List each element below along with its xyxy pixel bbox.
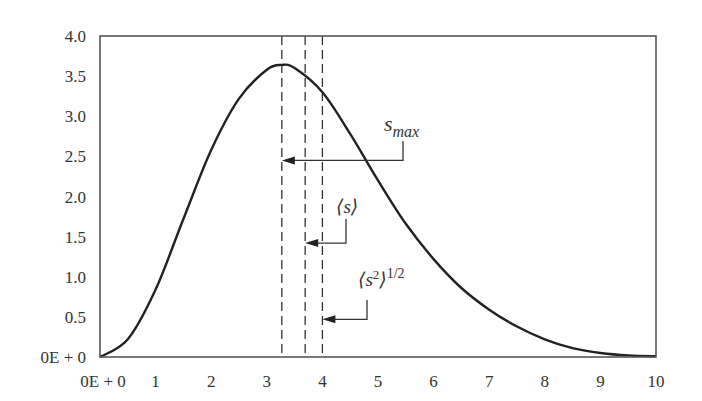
- label-mean-s: ⟨s⟩: [336, 196, 358, 217]
- y-tick-label: 0.5: [65, 308, 86, 327]
- plot-frame: [100, 36, 656, 357]
- line-chart: 0E + 00.51.01.52.02.53.03.54.0 0E + 0123…: [0, 0, 702, 401]
- x-tick-label: 2: [207, 372, 216, 391]
- x-tick-label: 3: [263, 372, 272, 391]
- y-tick-label: 3.5: [65, 67, 86, 86]
- x-tick-label: 5: [374, 372, 383, 391]
- y-tick-label: 1.5: [65, 228, 86, 247]
- y-tick-label: 2.0: [65, 188, 86, 207]
- x-tick-label: 8: [541, 372, 550, 391]
- leader-line-mean_s: [315, 219, 346, 243]
- x-tick-label: 7: [485, 372, 494, 391]
- x-axis-tick-labels: 0E + 012345678910: [80, 372, 664, 391]
- x-tick-label: 9: [596, 372, 605, 391]
- marker-annotations: smax⟨s⟩⟨s2⟩1/2: [282, 111, 419, 323]
- x-tick-label: 10: [648, 372, 665, 391]
- x-tick-label: 1: [151, 372, 160, 391]
- leader-line-s_max: [292, 141, 403, 160]
- x-tick-label: 6: [429, 372, 438, 391]
- x-tick-label: 4: [318, 372, 327, 391]
- arrow-head-icon: [282, 156, 295, 164]
- y-tick-label: 2.5: [65, 147, 86, 166]
- y-tick-label: 4.0: [65, 27, 86, 46]
- distribution-curve: [100, 65, 656, 357]
- y-tick-label: 3.0: [65, 107, 86, 126]
- y-axis-tick-labels: 0E + 00.51.01.52.02.53.03.54.0: [41, 27, 86, 367]
- arrow-head-icon: [322, 315, 335, 323]
- arrow-head-icon: [305, 239, 318, 247]
- x-tick-label: 0E + 0: [80, 372, 125, 391]
- y-tick-label: 1.0: [65, 268, 86, 287]
- y-tick-label: 0E + 0: [41, 348, 86, 367]
- label-rms-s: ⟨s2⟩1/2: [358, 266, 405, 290]
- leader-line-rms_s: [332, 300, 367, 319]
- label-s-max: smax: [384, 111, 419, 140]
